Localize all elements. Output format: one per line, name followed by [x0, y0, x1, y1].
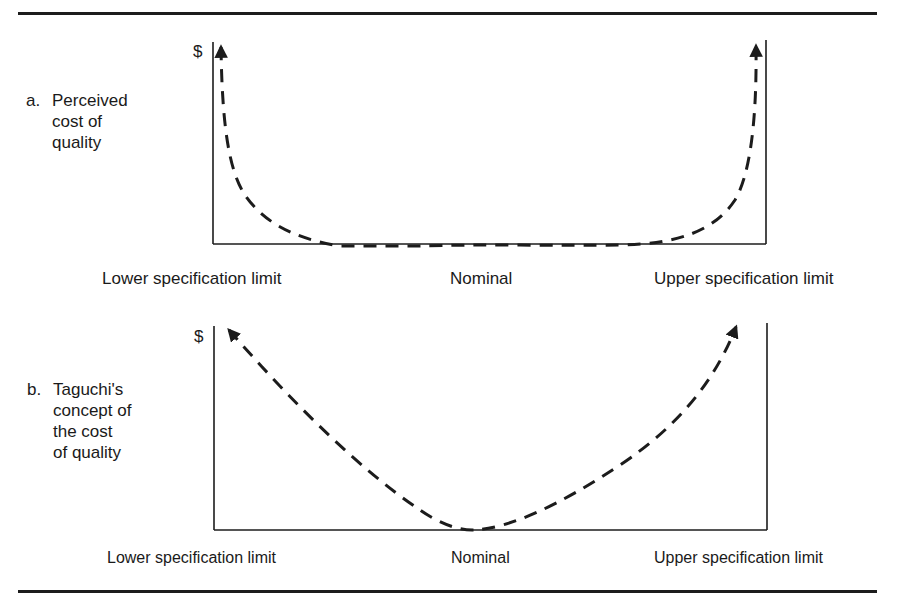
- panel-a-cost-curve: [221, 46, 756, 246]
- panel-a-axes: [213, 40, 766, 244]
- panel-b-axes: [214, 323, 767, 530]
- figure-graphics: [0, 0, 903, 604]
- panel-b-taguchi-curve: [229, 327, 736, 530]
